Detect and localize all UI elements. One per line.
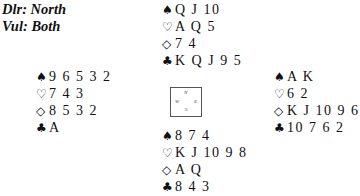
hand-east: ♠A K ♡6 2 ◇K J 10 9 6 ♣10 7 6 2: [274, 68, 360, 136]
west-hearts: ♡7 4 3: [36, 85, 112, 102]
compass-north: N: [184, 90, 187, 95]
hand-west: ♠9 6 5 3 2 ♡7 4 3 ◇8 5 3 2 ♣A: [36, 68, 112, 136]
dealer-label: Dlr: North: [2, 1, 66, 18]
north-spades: ♠Q J 10: [162, 1, 242, 18]
heart-icon: ♡: [36, 86, 49, 103]
spade-icon: ♠: [36, 69, 49, 86]
east-diamonds: ◇K J 10 9 6: [274, 102, 360, 119]
spade-icon: ♠: [162, 128, 175, 145]
west-diamonds: ◇8 5 3 2: [36, 102, 112, 119]
club-icon: ♣: [274, 120, 287, 137]
diamond-icon: ◇: [274, 103, 287, 120]
north-diamonds: ◇7 4: [162, 35, 242, 52]
club-icon: ♣: [162, 179, 175, 196]
west-clubs: ♣A: [36, 119, 112, 136]
diamond-icon: ◇: [162, 162, 175, 179]
south-hearts: ♡K J 10 9 8: [162, 144, 248, 161]
heart-icon: ♡: [274, 86, 287, 103]
north-clubs: ♣K Q J 9 5: [162, 52, 242, 69]
heart-icon: ♡: [162, 145, 175, 162]
compass-box: N W E S: [170, 87, 202, 117]
south-clubs: ♣8 4 3: [162, 178, 248, 195]
club-icon: ♣: [36, 120, 49, 137]
east-clubs: ♣10 7 6 2: [274, 119, 360, 136]
spade-icon: ♠: [162, 2, 175, 19]
hand-north: ♠Q J 10 ♡A Q 5 ◇7 4 ♣K Q J 9 5: [162, 1, 242, 69]
east-hearts: ♡6 2: [274, 85, 360, 102]
diamond-icon: ◇: [162, 36, 175, 53]
diamond-icon: ◇: [36, 103, 49, 120]
east-spades: ♠A K: [274, 68, 360, 85]
vulnerability-label: Vul: Both: [2, 18, 60, 35]
west-spades: ♠9 6 5 3 2: [36, 68, 112, 85]
south-spades: ♠8 7 4: [162, 127, 248, 144]
club-icon: ♣: [162, 53, 175, 70]
compass-east: E: [194, 99, 197, 104]
south-diamonds: ◇A Q: [162, 161, 248, 178]
compass-west: W: [175, 99, 179, 104]
hand-south: ♠8 7 4 ♡K J 10 9 8 ◇A Q ♣8 4 3: [162, 127, 248, 195]
spade-icon: ♠: [274, 69, 287, 86]
compass-south: S: [185, 107, 188, 112]
heart-icon: ♡: [162, 19, 175, 36]
north-hearts: ♡A Q 5: [162, 18, 242, 35]
